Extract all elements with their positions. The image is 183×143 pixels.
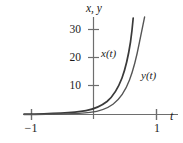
y-tick-label-30: 30 xyxy=(55,24,81,36)
x-tick-label-plus1: 1 xyxy=(144,122,170,134)
x-tick-label-minus1: −1 xyxy=(18,122,44,134)
curve-label-x-t: x(t) xyxy=(101,48,116,59)
x-axis-title: t xyxy=(170,110,173,122)
curve-label-y-t: y(t) xyxy=(141,70,156,81)
y-tick-label-20: 20 xyxy=(55,52,81,64)
y-axis-title: x, y xyxy=(74,3,114,15)
y-tick-label-10: 10 xyxy=(55,80,81,92)
chart-figure: x, y 30 20 10 x(t) y(t) t −1 1 xyxy=(0,0,183,143)
